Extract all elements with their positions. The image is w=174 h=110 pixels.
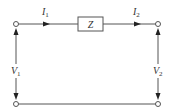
current-arrow-i2 (134, 22, 141, 27)
circuit-diagram: Z I1 I2 V1 V2 (0, 0, 174, 110)
voltage-label-v1: V1 (11, 65, 21, 78)
current-label-i1: I1 (41, 6, 49, 19)
terminal-bottom-right (156, 102, 161, 107)
terminal-top-left (14, 22, 19, 27)
terminal-top-right (156, 22, 161, 27)
voltage-arrow-v2-up (156, 28, 161, 35)
voltage-arrow-v2-down (156, 93, 161, 100)
current-arrow-i1 (43, 22, 50, 27)
voltage-arrow-v1-up (14, 28, 19, 35)
voltage-label-v2: V2 (153, 65, 163, 78)
impedance-box: Z (78, 17, 103, 31)
terminal-bottom-left (14, 102, 19, 107)
impedance-label: Z (88, 19, 94, 30)
voltage-arrow-v1-down (14, 93, 19, 100)
current-label-i2: I2 (132, 6, 140, 19)
